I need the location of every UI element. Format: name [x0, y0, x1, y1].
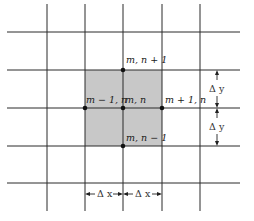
label-dy-upper: Δ y [209, 83, 225, 94]
finite-difference-grid-diagram: m, n + 1 m − 1, n m, n m + 1, n m, n − 1… [0, 0, 254, 221]
node-left [83, 106, 88, 111]
label-node-top: m, n + 1 [126, 54, 167, 65]
label-dy-lower: Δ y [209, 121, 225, 132]
label-dx-right: Δ x [135, 188, 151, 199]
label-node-center: m, n [125, 94, 146, 105]
label-node-right: m + 1, n [165, 94, 206, 105]
node-bottom [121, 144, 126, 149]
node-right [160, 106, 165, 111]
label-dx-left: Δ x [97, 188, 113, 199]
node-top [121, 68, 126, 73]
label-node-left: m − 1, n [86, 94, 127, 105]
node-center [121, 106, 126, 111]
label-node-bottom: m, n − 1 [126, 132, 167, 143]
